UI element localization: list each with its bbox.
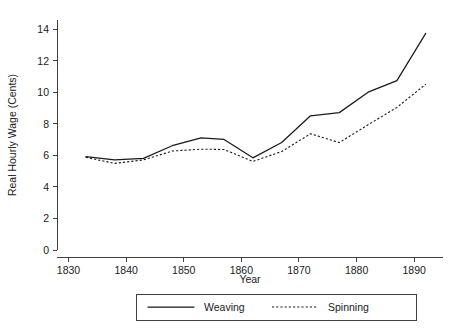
y-tick-label: 8 bbox=[43, 118, 49, 130]
y-tick-label: 10 bbox=[37, 86, 49, 98]
data-series-group bbox=[86, 33, 426, 163]
x-tick-label: 1850 bbox=[172, 264, 196, 276]
y-tick-label: 2 bbox=[43, 212, 49, 224]
x-axis: 1830184018501860187018801890 Year bbox=[57, 257, 443, 285]
y-axis: 02468101214 Real Hourly Wage (Cents) bbox=[6, 20, 57, 256]
y-axis-ticks: 02468101214 bbox=[37, 23, 57, 256]
x-tick-label: 1830 bbox=[57, 264, 81, 276]
x-axis-title: Year bbox=[239, 273, 261, 285]
y-tick-label: 6 bbox=[43, 149, 49, 161]
legend-label-spinning: Spinning bbox=[328, 301, 369, 313]
line-chart: 02468101214 Real Hourly Wage (Cents) 183… bbox=[0, 0, 453, 333]
x-tick-label: 1880 bbox=[345, 264, 369, 276]
y-tick-label: 0 bbox=[43, 244, 49, 256]
y-axis-title: Real Hourly Wage (Cents) bbox=[6, 74, 18, 196]
x-tick-label: 1870 bbox=[287, 264, 311, 276]
chart-container: 02468101214 Real Hourly Wage (Cents) 183… bbox=[0, 0, 453, 333]
series-line-spinning bbox=[86, 84, 426, 163]
x-tick-label: 1840 bbox=[114, 264, 138, 276]
y-tick-label: 4 bbox=[43, 181, 49, 193]
y-tick-label: 12 bbox=[37, 55, 49, 67]
series-line-weaving bbox=[86, 33, 426, 160]
legend-label-weaving: Weaving bbox=[204, 301, 245, 313]
y-tick-label: 14 bbox=[37, 23, 49, 35]
chart-legend: Weaving Spinning bbox=[136, 294, 416, 320]
x-tick-label: 1890 bbox=[403, 264, 427, 276]
